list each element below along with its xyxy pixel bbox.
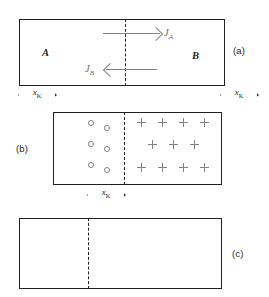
marker-plus-icon — [190, 140, 199, 149]
flux-subscript: B — [90, 69, 94, 77]
vacancy-circle-icon — [104, 125, 110, 131]
panel-a-dimension-xk-right: xK — [221, 89, 257, 100]
dimension-label-xk: xK — [88, 187, 124, 201]
dimension-subscript: K — [37, 92, 42, 99]
marker-plus-icon — [179, 163, 188, 172]
vacancy-circle-icon — [104, 146, 110, 152]
kirkendall-diffusion-figure: A B JA JB (a) xK — [0, 0, 269, 297]
panel-a-flux-label-JA: JA — [164, 27, 173, 41]
marker-plus-icon — [158, 118, 167, 127]
panel-b-label: (b) — [16, 143, 28, 154]
panel-b-dimension-xk: xK — [88, 189, 124, 200]
dimension-label-xk: xK — [221, 87, 257, 101]
dimension-subscript: K — [106, 192, 111, 199]
panel-c-specimen-rect — [19, 218, 222, 289]
marker-plus-icon — [200, 118, 209, 127]
panel-a-flux-label-JB: JB — [85, 63, 94, 77]
marker-plus-icon — [200, 163, 209, 172]
panel-a-dimension-xk-left: xK — [19, 89, 55, 100]
dimension-label-xk: xK — [19, 87, 55, 101]
panel-a-region-label-B: B — [192, 50, 199, 61]
panel-c-interface-dashed-line — [88, 218, 89, 289]
panel-c-label: (c) — [232, 248, 244, 259]
panel-a-region-label-A: A — [42, 47, 49, 58]
panel-b-interface-dashed-line — [124, 112, 125, 185]
flux-subscript: A — [169, 33, 173, 41]
panel-a-label: (a) — [233, 45, 245, 56]
marker-plus-icon — [169, 140, 178, 149]
vacancy-circle-icon — [104, 167, 110, 173]
vacancy-circle-icon — [88, 162, 94, 168]
arrow-right-icon-flux-a — [103, 29, 160, 38]
marker-plus-icon — [158, 163, 167, 172]
dimension-subscript: K — [239, 92, 244, 99]
marker-plus-icon — [148, 140, 157, 149]
arrow-left-icon-flux-b — [106, 65, 157, 74]
vacancy-circle-icon — [88, 120, 94, 126]
vacancy-circle-icon — [88, 141, 94, 147]
marker-plus-icon — [137, 118, 146, 127]
marker-plus-icon — [179, 118, 188, 127]
marker-plus-icon — [137, 163, 146, 172]
